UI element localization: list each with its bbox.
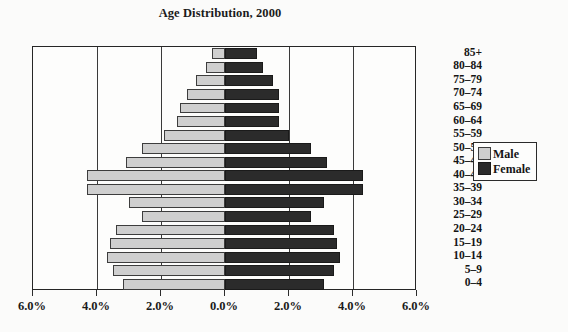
male-swatch-icon <box>478 147 491 160</box>
bar-male[interactable] <box>142 143 225 154</box>
age-group-label: 30–34 <box>424 196 482 208</box>
bar-row <box>33 116 415 127</box>
bar-female[interactable] <box>225 157 327 168</box>
bar-row <box>33 225 415 236</box>
bar-male[interactable] <box>212 48 225 59</box>
age-group-label: 25–29 <box>424 209 482 221</box>
chart-title: Age Distribution, 2000 <box>0 6 440 21</box>
chart-figure: Age Distribution, 2000 85+80–8475–7970–7… <box>0 0 568 332</box>
bar-male[interactable] <box>116 225 225 236</box>
age-group-label: 70–74 <box>424 87 482 99</box>
bar-male[interactable] <box>142 211 225 222</box>
x-axis-tick <box>352 290 353 296</box>
x-axis-tick <box>416 290 417 296</box>
bar-female[interactable] <box>225 184 363 195</box>
bar-male[interactable] <box>177 116 225 127</box>
bar-row <box>33 103 415 114</box>
age-group-label: 75–79 <box>424 74 482 86</box>
bar-female[interactable] <box>225 130 289 141</box>
bar-male[interactable] <box>87 170 225 181</box>
bar-row <box>33 157 415 168</box>
x-axis-label: 0.0% <box>194 299 254 314</box>
bar-female[interactable] <box>225 170 363 181</box>
female-swatch-icon <box>478 162 491 175</box>
bar-row <box>33 143 415 154</box>
bar-female[interactable] <box>225 279 324 290</box>
age-group-label: 10–14 <box>424 250 482 262</box>
age-group-label: 35–39 <box>424 182 482 194</box>
bar-male[interactable] <box>206 62 225 73</box>
x-axis-tick <box>32 290 33 296</box>
age-group-label: 5–9 <box>424 264 482 276</box>
plot-area <box>32 46 416 290</box>
bar-male[interactable] <box>107 252 225 263</box>
chart-legend: MaleFemale <box>473 142 537 181</box>
bar-female[interactable] <box>225 143 311 154</box>
bar-female[interactable] <box>225 62 263 73</box>
bar-row <box>33 75 415 86</box>
bar-male[interactable] <box>196 75 225 86</box>
x-axis-label: 4.0% <box>66 299 126 314</box>
bar-female[interactable] <box>225 238 337 249</box>
bar-male[interactable] <box>187 89 225 100</box>
bar-row <box>33 170 415 181</box>
bar-male[interactable] <box>110 238 225 249</box>
bar-row <box>33 89 415 100</box>
age-group-label: 85+ <box>424 47 482 59</box>
x-axis-label: 2.0% <box>258 299 318 314</box>
bar-male[interactable] <box>180 103 225 114</box>
x-axis-tick <box>160 290 161 296</box>
legend-label: Female <box>493 163 530 175</box>
bar-row <box>33 48 415 59</box>
bar-male[interactable] <box>113 265 225 276</box>
bar-male[interactable] <box>129 197 225 208</box>
bar-female[interactable] <box>225 116 279 127</box>
bar-male[interactable] <box>87 184 225 195</box>
bar-female[interactable] <box>225 103 279 114</box>
x-axis-tick <box>96 290 97 296</box>
bar-row <box>33 184 415 195</box>
bar-female[interactable] <box>225 265 334 276</box>
bar-female[interactable] <box>225 75 273 86</box>
bar-row <box>33 62 415 73</box>
x-axis-label: 4.0% <box>322 299 382 314</box>
legend-item: Female <box>478 161 530 176</box>
bar-female[interactable] <box>225 197 324 208</box>
x-axis-tick <box>224 290 225 296</box>
bar-row <box>33 211 415 222</box>
bar-row <box>33 279 415 290</box>
age-group-label: 60–64 <box>424 115 482 127</box>
bar-row <box>33 197 415 208</box>
x-axis-label: 2.0% <box>130 299 190 314</box>
bar-row <box>33 265 415 276</box>
bar-female[interactable] <box>225 211 311 222</box>
age-group-label: 65–69 <box>424 101 482 113</box>
age-group-label: 0–4 <box>424 277 482 289</box>
bar-row <box>33 252 415 263</box>
x-axis-label: 6.0% <box>386 299 446 314</box>
bar-female[interactable] <box>225 48 257 59</box>
bar-male[interactable] <box>164 130 225 141</box>
bar-row <box>33 238 415 249</box>
bar-male[interactable] <box>123 279 225 290</box>
legend-label: Male <box>493 148 519 160</box>
x-axis-tick <box>288 290 289 296</box>
bars-layer <box>33 47 415 289</box>
age-group-label: 15–19 <box>424 237 482 249</box>
age-group-label: 55–59 <box>424 128 482 140</box>
age-group-label: 20–24 <box>424 223 482 235</box>
age-group-label: 80–84 <box>424 60 482 72</box>
x-axis-label: 6.0% <box>2 299 62 314</box>
bar-female[interactable] <box>225 89 279 100</box>
bar-female[interactable] <box>225 225 334 236</box>
bar-female[interactable] <box>225 252 340 263</box>
bar-male[interactable] <box>126 157 225 168</box>
bar-row <box>33 130 415 141</box>
legend-item: Male <box>478 146 530 161</box>
